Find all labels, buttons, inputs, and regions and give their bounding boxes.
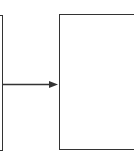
arrow-connector: [0, 0, 134, 159]
